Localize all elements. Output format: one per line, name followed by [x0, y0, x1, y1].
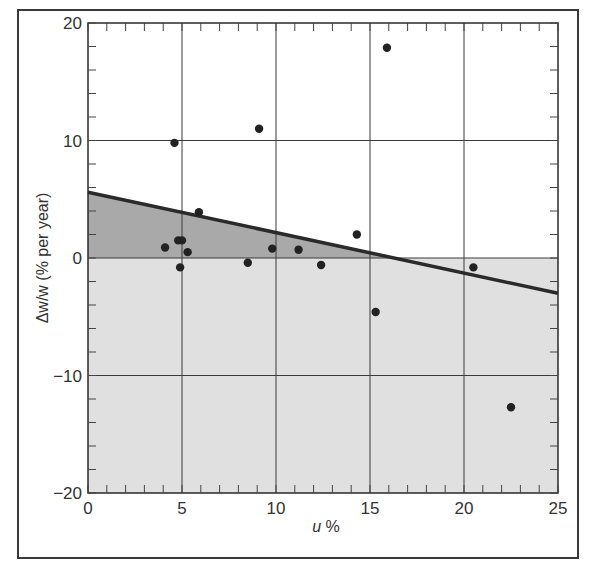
y-tick-label: 20: [63, 14, 82, 33]
x-tick-label: 0: [83, 499, 92, 518]
data-point: [244, 259, 252, 267]
data-point: [469, 263, 477, 271]
data-point: [317, 261, 325, 269]
data-point: [507, 403, 515, 411]
data-point: [371, 308, 379, 316]
data-point: [294, 246, 302, 254]
y-tick-label: 0: [73, 249, 82, 268]
x-tick-label: 5: [177, 499, 186, 518]
data-point: [383, 43, 391, 51]
x-axis-label: u %: [312, 518, 340, 535]
data-point: [178, 236, 186, 244]
x-tick-label: 15: [361, 499, 380, 518]
x-tick-label: 25: [549, 499, 568, 518]
data-point: [161, 243, 169, 251]
data-point: [353, 230, 361, 238]
y-tick-label: 10: [63, 132, 82, 151]
y-tick-label: −10: [53, 367, 82, 386]
plot-area: [88, 23, 558, 493]
data-point: [170, 139, 178, 147]
y-axis-label: Δw/w (% per year): [34, 193, 51, 324]
data-point: [268, 244, 276, 252]
data-point: [195, 208, 203, 216]
data-point: [176, 263, 184, 271]
x-tick-label: 10: [267, 499, 286, 518]
scatter-chart: 0510152025−20−1001020 u % Δw/w (% per ye…: [0, 0, 593, 574]
x-tick-label: 20: [455, 499, 474, 518]
data-point: [183, 248, 191, 256]
data-point: [255, 125, 263, 133]
y-tick-label: −20: [53, 484, 82, 503]
